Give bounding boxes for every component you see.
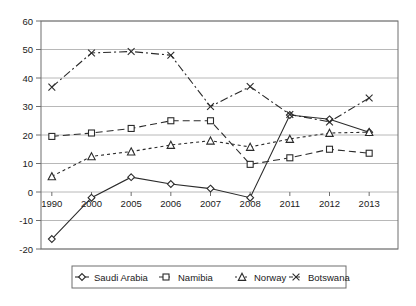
legend-label: Saudi Arabia (94, 272, 149, 283)
y-axis-labels: 6050403020100-10-20 (19, 16, 33, 255)
series-group (48, 48, 373, 242)
y-tick-label: 60 (22, 16, 33, 27)
y-tick-label: -10 (19, 215, 33, 226)
data-point-marker (287, 155, 293, 161)
x-tick-label: 2012 (319, 198, 340, 209)
x-tick-label: 2005 (121, 198, 142, 209)
data-point-marker (128, 174, 135, 181)
y-tick-label: 0 (28, 187, 33, 198)
data-point-marker (167, 181, 174, 188)
data-point-marker (49, 133, 55, 139)
line-chart: 6050403020100-10-20 19902000200520062007… (0, 0, 416, 306)
series-norway (48, 128, 373, 179)
x-tick-label: 1990 (41, 198, 62, 209)
data-point-marker (327, 146, 333, 152)
data-point-marker (168, 118, 174, 124)
data-point-marker (366, 150, 372, 156)
data-point-marker (207, 185, 214, 192)
y-tick-label: -20 (19, 244, 33, 255)
y-tick-label: 20 (22, 130, 33, 141)
y-tick-label: 30 (22, 101, 33, 112)
series-line (52, 51, 369, 121)
data-point-marker (163, 274, 169, 280)
legend-label: Botswana (308, 272, 350, 283)
data-point-marker (208, 118, 214, 124)
x-tick-label: 2011 (280, 198, 300, 209)
y-tick-label: 50 (22, 44, 33, 55)
y-tick-label: 10 (22, 158, 33, 169)
data-point-marker (128, 125, 134, 131)
series-saudi-arabia (48, 112, 372, 243)
data-point-marker (246, 143, 253, 150)
series-botswana (48, 48, 372, 125)
chart-canvas: 6050403020100-10-20 19902000200520062007… (0, 0, 416, 306)
data-point-marker (48, 173, 55, 180)
data-point-marker (89, 130, 95, 136)
legend-label: Norway (254, 272, 286, 283)
chart-legend: Saudi ArabiaNamibiaNorwayBotswana (72, 266, 350, 288)
data-point-marker (207, 137, 214, 144)
x-tick-label: 2006 (160, 198, 181, 209)
data-point-marker (247, 161, 253, 167)
legend-label: Namibia (178, 272, 214, 283)
x-tick-label: 2007 (200, 198, 221, 209)
data-point-marker (88, 153, 95, 160)
x-tick-label: 2013 (359, 198, 380, 209)
y-tick-label: 40 (22, 73, 33, 84)
